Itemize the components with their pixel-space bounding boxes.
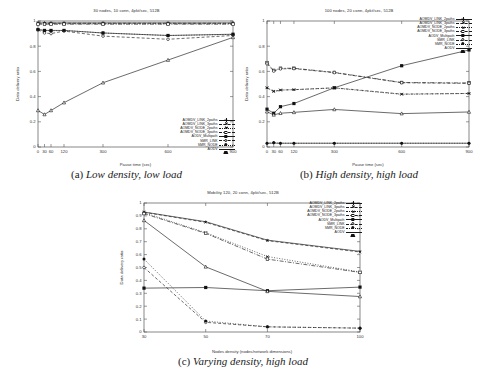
caption-a: (a) Low density, low load	[14, 168, 239, 180]
svg-text:0.4: 0.4	[259, 94, 265, 99]
svg-text:0.4: 0.4	[30, 94, 36, 99]
svg-text:Pause time (sec): Pause time (sec)	[352, 162, 384, 167]
svg-text:60: 60	[278, 149, 283, 154]
svg-text:0.6: 0.6	[136, 252, 142, 257]
svg-text:0: 0	[33, 144, 36, 149]
svg-text:0: 0	[262, 144, 265, 149]
svg-text:Data delivery ratio: Data delivery ratio	[244, 66, 249, 100]
svg-text:100: 100	[357, 334, 365, 339]
svg-text:120: 120	[61, 149, 69, 154]
legend-b: AOMDV_LINK_2pathsAOMDV_LINK_3pathsAOMDV_…	[417, 17, 472, 50]
svg-text:1: 1	[139, 200, 142, 205]
legend-symbol-tri-open-icon	[219, 147, 235, 151]
plot-area-a: 00.20.40.60.8103060120300600900Pause tim…	[14, 15, 239, 167]
plot-title-a: 30 nodes, 10 conn, 4pkt/sec, 512B	[14, 8, 239, 15]
svg-text:70: 70	[265, 334, 270, 339]
plot-area-c: 00.10.20.30.40.50.60.70.80.91305070100No…	[118, 197, 368, 354]
svg-text:Data delivery ratio: Data delivery ratio	[15, 66, 20, 100]
svg-text:600: 600	[398, 149, 406, 154]
plot-title-c: Mobility 120, 20 conn, 4pkt/sec, 512B	[118, 190, 368, 197]
svg-text:0.6: 0.6	[259, 69, 265, 74]
legend-label: AODV	[335, 230, 345, 234]
caption-c-text: Varying density, high load	[193, 355, 308, 367]
svg-text:300: 300	[100, 149, 108, 154]
plot-area-b: 00.20.40.60.8103060120300600900Pause tim…	[243, 15, 475, 167]
svg-text:0: 0	[37, 149, 40, 154]
caption-a-number: (a)	[71, 168, 83, 180]
svg-text:0.2: 0.2	[136, 304, 142, 309]
legend-entry: AODV	[417, 46, 472, 50]
svg-text:30: 30	[271, 149, 276, 154]
svg-text:30: 30	[142, 334, 147, 339]
legend-label: AODV	[208, 147, 218, 151]
legend-entry: AODV	[180, 147, 235, 151]
subfigure-c: Mobility 120, 20 conn, 4pkt/sec, 512B 00…	[118, 190, 368, 380]
svg-text:Pause time (sec): Pause time (sec)	[120, 162, 152, 167]
caption-b-text: High density, high load	[315, 168, 418, 180]
subfigure-a: 30 nodes, 10 conn, 4pkt/sec, 512B 00.20.…	[14, 8, 239, 190]
svg-text:0.8: 0.8	[30, 44, 36, 49]
legend-c: AOMDV_LINK_2pathsAOMDV_LINK_3pathsAOMDV_…	[307, 201, 362, 234]
svg-text:0.8: 0.8	[136, 226, 142, 231]
plot-title-b: 100 nodes, 20 conn, 4pkt/sec, 512B	[243, 8, 475, 15]
svg-text:0.2: 0.2	[259, 119, 265, 124]
svg-text:30: 30	[42, 149, 47, 154]
legend-a: AOMDV_LINK_2pathsAOMDV_LINK_3pathsAOMDV_…	[180, 118, 235, 151]
svg-text:0.6: 0.6	[30, 69, 36, 74]
svg-text:0.1: 0.1	[136, 317, 142, 322]
svg-text:50: 50	[203, 334, 208, 339]
svg-text:0.2: 0.2	[30, 119, 36, 124]
svg-text:Nodes density (nodes/network d: Nodes density (nodes/network dimensions)	[212, 349, 293, 354]
caption-b-number: (b)	[300, 168, 313, 180]
svg-text:0.7: 0.7	[136, 239, 142, 244]
svg-text:0.9: 0.9	[136, 213, 142, 218]
svg-text:0.8: 0.8	[259, 44, 265, 49]
svg-text:0.3: 0.3	[136, 291, 142, 296]
legend-symbol-tri-open-icon	[456, 46, 472, 50]
svg-text:1: 1	[262, 18, 265, 23]
svg-text:60: 60	[49, 149, 54, 154]
caption-c-number: (c)	[178, 355, 190, 367]
svg-text:Data delivery ratio: Data delivery ratio	[119, 250, 124, 284]
caption-c: (c) Varying density, high load	[118, 355, 368, 367]
figure-page: 30 nodes, 10 conn, 4pkt/sec, 512B 00.20.…	[0, 0, 480, 382]
svg-text:120: 120	[290, 149, 298, 154]
svg-text:900: 900	[466, 149, 474, 154]
svg-text:600: 600	[165, 149, 173, 154]
svg-text:1: 1	[33, 18, 36, 23]
legend-label: AODV	[445, 46, 455, 50]
subfigure-b: 100 nodes, 20 conn, 4pkt/sec, 512B 00.20…	[243, 8, 475, 190]
caption-a-text: Low density, low load	[86, 168, 182, 180]
legend-symbol-tri-open-icon	[346, 230, 362, 234]
svg-text:0: 0	[266, 149, 269, 154]
caption-b: (b) High density, high load	[243, 168, 475, 180]
legend-entry: AODV	[307, 230, 362, 234]
svg-text:0.5: 0.5	[136, 265, 142, 270]
svg-text:0.4: 0.4	[136, 278, 142, 283]
svg-text:300: 300	[331, 149, 339, 154]
